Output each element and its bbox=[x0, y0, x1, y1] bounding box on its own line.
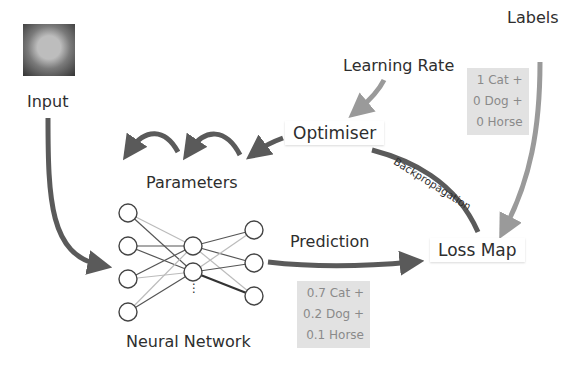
prediction-line: 0.1 Horse bbox=[303, 325, 364, 346]
prediction-label: Prediction bbox=[290, 232, 369, 251]
input-image bbox=[23, 24, 75, 76]
optimiser-node: Optimiser bbox=[285, 121, 384, 145]
parameters-label: Parameters bbox=[146, 173, 238, 192]
parameter-arc-icon-1 bbox=[130, 134, 178, 152]
neural-network-label: Neural Network bbox=[126, 332, 251, 351]
loss-map-node: Loss Map bbox=[430, 238, 525, 262]
backprop-arrow bbox=[372, 150, 478, 232]
nn-nodes bbox=[119, 204, 263, 321]
learning-rate-label: Learning Rate bbox=[343, 56, 454, 75]
label-line: 0 Horse bbox=[473, 112, 523, 133]
label-line: 1 Cat + bbox=[473, 70, 523, 91]
prediction-line: 0.7 Cat + bbox=[303, 283, 364, 304]
prediction-arrow bbox=[268, 262, 412, 266]
parameter-arc-icon-2 bbox=[190, 134, 240, 155]
nn-ellipsis: ⋮ bbox=[188, 285, 200, 291]
label-box: 1 Cat + 0 Dog + 0 Horse bbox=[467, 68, 529, 135]
label-line: 0 Dog + bbox=[473, 91, 523, 112]
optimiser-arrow bbox=[256, 138, 283, 152]
prediction-line: 0.2 Dog + bbox=[303, 304, 364, 325]
input-label: Input bbox=[27, 92, 68, 111]
nn-edges bbox=[128, 213, 254, 312]
labels-label: Labels bbox=[507, 8, 559, 27]
diagram-canvas bbox=[0, 0, 586, 368]
prediction-box: 0.7 Cat + 0.2 Dog + 0.1 Horse bbox=[297, 281, 370, 348]
learning-rate-arrow bbox=[358, 80, 384, 110]
input-arrow bbox=[48, 118, 100, 265]
